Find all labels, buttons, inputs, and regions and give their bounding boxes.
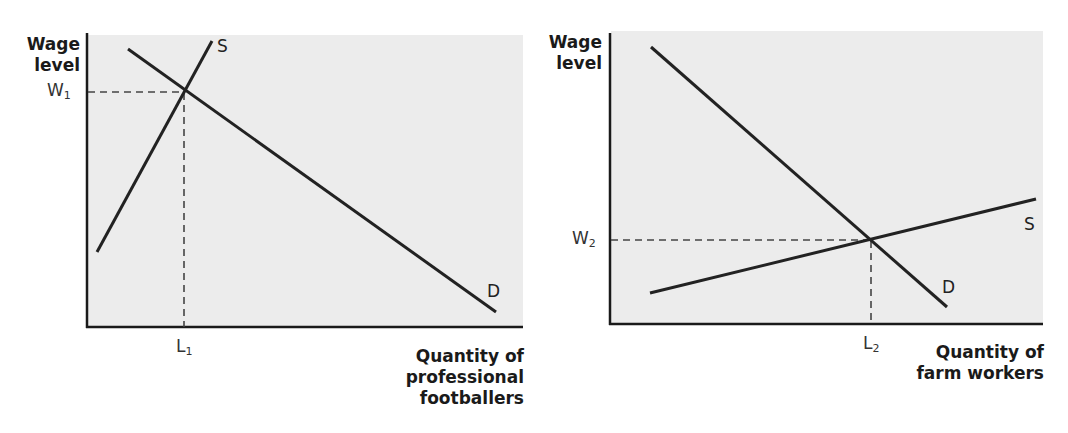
left-demand-label: D — [487, 281, 500, 301]
left-w1-label: W1 — [47, 80, 71, 102]
right-supply-label: S — [1024, 214, 1035, 234]
right-y-title-line2: level — [530, 53, 602, 74]
l1-subscript: 1 — [185, 345, 192, 358]
left-x-title-line1: Quantity of — [360, 346, 524, 367]
w2-subscript: 2 — [589, 237, 596, 250]
left-l1-label: L1 — [176, 336, 192, 358]
w1-subscript: 1 — [64, 89, 71, 102]
right-demand-label: D — [942, 277, 955, 297]
right-x-axis-title: Quantity of farm workers — [880, 342, 1044, 384]
left-chart — [86, 33, 523, 328]
right-x-title-line2: farm workers — [880, 363, 1044, 384]
left-supply-label: S — [217, 36, 228, 56]
right-y-title-line1: Wage — [530, 32, 602, 53]
right-y-axis-title: Wage level — [530, 32, 602, 74]
right-l2-label: L2 — [863, 333, 879, 355]
right-chart — [609, 31, 1043, 325]
w1-letter: W — [47, 80, 64, 100]
left-y-title-line1: Wage — [10, 34, 80, 55]
right-plot-area — [611, 31, 1043, 324]
w2-letter: W — [572, 228, 589, 248]
left-x-title-line2: professional — [360, 367, 524, 388]
l2-subscript: 2 — [872, 342, 879, 355]
right-w2-label: W2 — [572, 228, 596, 250]
left-y-title-line2: level — [10, 55, 80, 76]
right-x-title-line1: Quantity of — [880, 342, 1044, 363]
left-x-title-line3: footballers — [360, 388, 524, 409]
left-x-axis-title: Quantity of professional footballers — [360, 346, 524, 409]
left-y-axis-title: Wage level — [10, 34, 80, 76]
